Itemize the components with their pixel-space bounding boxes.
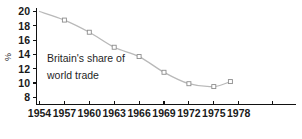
data-point-marker xyxy=(112,45,116,49)
x-tick-label-1963: 1963 xyxy=(103,107,127,119)
y-axis-group: 20 18 16 14 12 10 8 % xyxy=(3,5,37,105)
x-tick-label-1978: 1978 xyxy=(227,107,251,119)
annotation-line-1: Britain's share of xyxy=(47,52,125,64)
data-point-marker xyxy=(137,55,141,59)
data-point-marker xyxy=(162,70,166,74)
y-tick-label-14: 14 xyxy=(18,48,30,60)
y-tick-label-16: 16 xyxy=(18,34,30,46)
x-tick-label-1972: 1972 xyxy=(177,107,201,119)
x-tick-label-1966: 1966 xyxy=(127,107,151,119)
y-tick-label-10: 10 xyxy=(18,77,30,89)
data-point-marker xyxy=(228,80,232,84)
x-axis-group: 1954 1957 1960 1963 1966 1969 1972 1975 … xyxy=(28,101,296,120)
y-tick-label-8: 8 xyxy=(24,91,30,103)
data-point-marker xyxy=(187,82,191,86)
annotation-group: Britain's share of world trade xyxy=(46,52,125,81)
data-point-marker xyxy=(87,30,91,34)
y-tick-label-20: 20 xyxy=(18,5,30,17)
x-tick-label-1954: 1954 xyxy=(28,107,52,119)
x-tick-label-1969: 1969 xyxy=(152,107,176,119)
x-tick-label-1957: 1957 xyxy=(53,107,77,119)
line-chart: 20 18 16 14 12 10 8 % 1954 1957 1960 196… xyxy=(0,0,302,139)
y-axis-title: % xyxy=(3,53,13,61)
annotation-line-2: world trade xyxy=(46,69,99,81)
x-tick-label-1975: 1975 xyxy=(202,107,226,119)
x-tick-label-1960: 1960 xyxy=(78,107,102,119)
y-tick-label-12: 12 xyxy=(18,63,30,75)
data-point-marker xyxy=(212,85,216,89)
chart-container: 20 18 16 14 12 10 8 % 1954 1957 1960 196… xyxy=(0,0,302,139)
y-tick-label-18: 18 xyxy=(18,20,30,32)
data-point-marker xyxy=(62,18,66,22)
